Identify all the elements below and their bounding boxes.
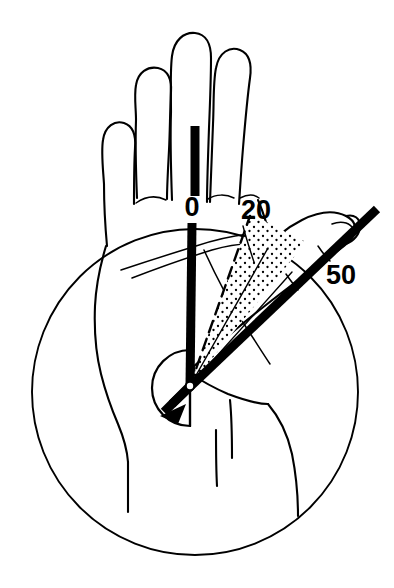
thumb-abduction-diagram: 0 20 50 (0, 0, 394, 588)
knuckle-crease (136, 197, 166, 203)
label-twenty-degrees: 20 (241, 195, 271, 225)
wrist-right-border (216, 430, 217, 486)
figure-root: 0 20 50 (0, 0, 394, 588)
little-finger-outline (102, 122, 135, 246)
palm-ulnar-border (95, 246, 128, 462)
goniometer-arm-lower-extension (164, 386, 190, 412)
wedge-guide-ray-a (190, 248, 268, 386)
pivot-point (186, 382, 194, 390)
abduction-arc-shaded-region (190, 214, 306, 386)
thumb-nail-outline (332, 222, 352, 227)
wrist-right-border-lower (230, 400, 232, 458)
hand-right-lower-border (268, 404, 298, 516)
index-finger-outline (135, 68, 171, 199)
knuckle-crease-2 (208, 195, 234, 199)
label-zero-degrees: 0 (184, 192, 199, 222)
ring-finger-outline (210, 49, 251, 204)
label-fifty-degrees: 50 (326, 260, 356, 290)
